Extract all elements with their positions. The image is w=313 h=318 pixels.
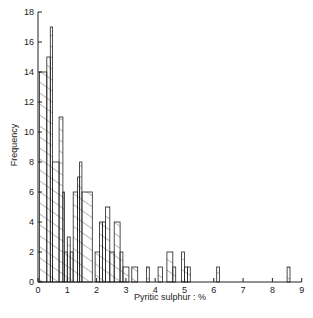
y-tick-label: 4 <box>29 217 34 227</box>
histogram-chart: 0246810121416180123456789 Pyritic sulphu… <box>0 0 313 318</box>
x-tick-label: 3 <box>123 285 128 295</box>
x-tick-label: 9 <box>299 285 304 295</box>
histogram-bar <box>105 207 109 282</box>
x-tick-label: 1 <box>65 285 70 295</box>
histogram-bar <box>95 252 99 282</box>
histogram-bar <box>67 237 70 282</box>
y-tick-label: 6 <box>29 187 34 197</box>
x-axis-label: Pyritic sulphur : % <box>134 292 206 302</box>
y-tick-label: 14 <box>24 67 34 77</box>
histogram-bar <box>182 252 185 282</box>
histogram-bar <box>120 252 123 282</box>
y-tick-label: 0 <box>29 277 34 287</box>
histogram-bar <box>80 162 82 282</box>
histogram-bar <box>287 267 290 282</box>
y-tick-label: 16 <box>24 37 34 47</box>
x-tick-label: 8 <box>270 285 275 295</box>
y-tick-label: 10 <box>24 127 34 137</box>
y-tick-label: 18 <box>24 7 34 17</box>
x-tick-label: 0 <box>35 285 40 295</box>
histogram-bar <box>187 267 190 282</box>
y-axis-label: Frequency <box>9 123 19 166</box>
histogram-bar <box>103 222 106 282</box>
y-tick-label: 2 <box>29 247 34 257</box>
histogram-bar <box>132 267 138 282</box>
histogram-bar <box>53 162 59 282</box>
histogram-bar <box>73 192 77 282</box>
histogram-bar <box>70 252 73 282</box>
histogram-bar <box>59 117 63 282</box>
histogram-bar <box>158 267 162 282</box>
histogram-bar <box>100 222 103 282</box>
y-tick-label: 8 <box>29 157 34 167</box>
x-tick-label: 6 <box>211 285 216 295</box>
histogram-bar <box>173 267 176 282</box>
histogram-bar <box>110 252 114 282</box>
histogram-bar <box>40 72 47 282</box>
histogram-bar <box>114 222 120 282</box>
histogram-bar <box>217 267 220 282</box>
x-tick-label: 7 <box>241 285 246 295</box>
histogram-bar <box>64 252 67 282</box>
histogram-bar <box>82 192 92 282</box>
x-tick-label: 2 <box>94 285 99 295</box>
histogram-bar <box>146 267 149 282</box>
histogram-bars <box>40 27 291 282</box>
histogram-bar <box>167 252 173 282</box>
y-tick-label: 12 <box>24 97 34 107</box>
histogram-bar <box>47 57 51 282</box>
